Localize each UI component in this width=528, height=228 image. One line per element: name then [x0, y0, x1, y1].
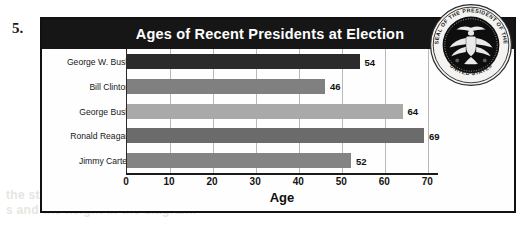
tick-label: 50 [336, 176, 347, 187]
bar-value-label: 69 [429, 131, 440, 142]
bar [127, 54, 360, 69]
plot-area: 5446646952 [126, 49, 436, 173]
bar-value-label: 64 [408, 106, 419, 117]
tick-label: 0 [123, 176, 129, 187]
bar [127, 153, 351, 168]
bar-value-label: 46 [330, 81, 341, 92]
category-label: Ronald Reagan [46, 131, 130, 141]
category-label: George W. Bush [46, 57, 130, 67]
bar [127, 79, 325, 94]
chart-title: Ages of Recent Presidents at Election [136, 26, 404, 42]
tick-label: 70 [422, 176, 433, 187]
bar [127, 104, 403, 119]
category-label: George Bush [46, 107, 130, 117]
bar-value-label: 54 [365, 57, 376, 68]
value-axis-line [126, 173, 438, 175]
value-axis-title: Age [126, 190, 438, 205]
bar [127, 128, 424, 143]
category-axis-labels: George W. BushBill ClintonGeorge BushRon… [46, 49, 130, 173]
tick-label: 60 [379, 176, 390, 187]
category-label: Bill Clinton [46, 82, 130, 92]
presidential-seal-icon: SEAL OF THE PRESIDENT OF THE UNITED STAT… [428, 2, 514, 88]
tick-label: 20 [207, 176, 218, 187]
tick-label: 10 [163, 176, 174, 187]
tick-label: 30 [250, 176, 261, 187]
bar-value-label: 52 [356, 156, 367, 167]
category-label: Jimmy Carter [46, 156, 130, 166]
tick-label: 40 [293, 176, 304, 187]
question-number: 5. [12, 20, 23, 37]
